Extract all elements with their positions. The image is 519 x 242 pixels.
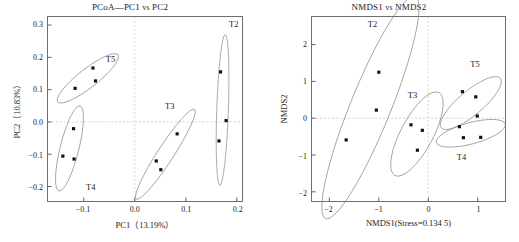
data-point-t2 — [225, 119, 228, 122]
cluster-ellipse-t3 — [129, 105, 201, 204]
x-tick-label: −0.1 — [76, 205, 91, 214]
data-point-t4 — [479, 136, 482, 139]
data-point-t4 — [72, 157, 75, 160]
pcoa-plot-area — [47, 16, 243, 202]
x-tick-label: 1 — [477, 205, 481, 214]
nmds-title-main: NMDS1 — [351, 2, 383, 12]
pcoa-title-main: PCoA—PC1 — [92, 2, 140, 12]
x-tick-label: 0 — [427, 205, 431, 214]
data-point-t3 — [176, 132, 179, 135]
data-point-t3 — [159, 168, 162, 171]
pcoa-graphics — [48, 17, 242, 201]
data-point-t3 — [416, 149, 419, 152]
data-point-t4 — [458, 125, 461, 128]
cluster-ellipse-t4 — [434, 114, 508, 153]
pcoa-title-vs: vs — [142, 3, 149, 12]
x-tick-label: 0.1 — [181, 205, 191, 214]
data-point-t2 — [375, 109, 378, 112]
pcoa-y-axis-title: PC2（10.83%） — [10, 16, 22, 202]
data-point-t2 — [345, 138, 348, 141]
nmds-plot-area — [311, 16, 506, 202]
cluster-label-t3: T3 — [408, 90, 417, 100]
data-point-t5 — [474, 95, 477, 98]
data-point-t4 — [462, 136, 465, 139]
pcoa-panel: PCoA—PC1 vs PC2 T5T4T3T2−0.2−0.10.00.10.… — [0, 0, 260, 242]
x-tick-label: −2 — [324, 205, 333, 214]
nmds-graphics — [312, 17, 505, 201]
data-point-t4 — [61, 155, 64, 158]
cluster-ellipse-t5 — [433, 69, 508, 137]
nmds-panel: NMDS1 vs NMDS2 T2T3T5T4−2−1012−2−101NMDS… — [259, 0, 519, 242]
data-point-t2 — [219, 70, 222, 73]
nmds-title: NMDS1 vs NMDS2 — [259, 2, 519, 12]
cluster-ellipse-t2 — [307, 0, 434, 226]
data-point-t5 — [461, 90, 464, 93]
data-point-t3 — [155, 159, 158, 162]
data-point-t5 — [74, 87, 77, 90]
cluster-label-t2: T2 — [229, 19, 238, 29]
nmds-title-tail: NMDS2 — [395, 2, 427, 12]
nmds-y-axis-title: NMDS2 — [279, 16, 289, 202]
cluster-label-t3: T3 — [165, 101, 174, 111]
cluster-label-t5: T5 — [106, 54, 115, 64]
nmds-x-axis-title: NMDS1(Stress=0.134 5) — [311, 218, 506, 228]
cluster-ellipse-t4 — [50, 104, 89, 194]
data-point-t5 — [476, 114, 479, 117]
x-tick-label: 0.2 — [233, 205, 243, 214]
cluster-label-t5: T5 — [470, 59, 479, 69]
data-point-t2 — [377, 71, 380, 74]
pcoa-title-tail: PC2 — [152, 2, 168, 12]
data-point-t2 — [217, 139, 220, 142]
cluster-label-t2: T2 — [368, 19, 377, 29]
nmds-title-vs: vs — [385, 3, 392, 12]
cluster-ellipse-t2 — [214, 34, 231, 185]
cluster-label-t4: T4 — [457, 152, 466, 162]
x-tick-label: −1 — [374, 205, 383, 214]
data-point-t4 — [72, 127, 75, 130]
figure-container: PCoA—PC1 vs PC2 T5T4T3T2−0.2−0.10.00.10.… — [0, 0, 519, 242]
x-tick-label: 0.0 — [130, 205, 140, 214]
pcoa-title: PCoA—PC1 vs PC2 — [0, 2, 260, 12]
data-point-t3 — [409, 123, 412, 126]
data-point-t5 — [91, 66, 94, 69]
pcoa-x-axis-title: PC1（13.19%） — [47, 218, 243, 230]
data-point-t5 — [94, 79, 97, 82]
data-point-t3 — [421, 129, 424, 132]
cluster-label-t4: T4 — [86, 182, 95, 192]
